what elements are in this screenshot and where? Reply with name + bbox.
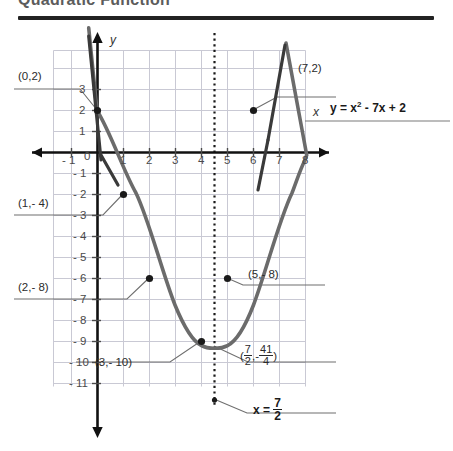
figure-page: Quadratic Function	[0, 0, 453, 451]
equation-rest: - 7x + 2	[365, 101, 406, 115]
y-tick-label-neg5: - 5	[73, 251, 86, 263]
equation-lhs: y =	[330, 101, 347, 115]
y-axis-label: y	[110, 33, 116, 47]
point-label-7-2: (7,2)	[298, 62, 322, 74]
vertex-x-fraction: 72	[244, 344, 252, 367]
y-tick-label-neg6: - 6	[73, 272, 86, 284]
y-tick-label-neg7: - 7	[73, 293, 86, 305]
vertex-close-paren: )	[273, 350, 277, 362]
point-5-neg8	[224, 275, 231, 282]
axis-of-symmetry-label: x = 72	[253, 398, 282, 423]
grid-lines	[54, 51, 306, 387]
y-tick-label-neg3: - 3	[73, 209, 86, 221]
point-1-neg4	[120, 191, 127, 198]
x-tick-label-7: 7	[276, 154, 282, 166]
axis-of-symmetry-lhs: x =	[253, 403, 270, 417]
y-tick-label-neg11: - 11	[69, 377, 88, 389]
equation-exponent: 2	[357, 100, 361, 109]
axis-of-symmetry-denominator: 2	[273, 409, 282, 422]
y-tick-label-neg2: - 2	[73, 188, 86, 200]
point-7-2	[250, 107, 257, 114]
x-tick-label-1: 1	[120, 154, 126, 166]
vertex-y-denominator: 4	[259, 355, 273, 367]
point-label-2-neg8: (2,- 8)	[18, 281, 49, 293]
x-axis-label: x	[313, 105, 319, 119]
x-tick-label-2: 2	[146, 154, 152, 166]
vertex-x-numerator: 7	[244, 344, 252, 355]
point-2-neg8	[146, 275, 153, 282]
parabola-curve	[89, 28, 307, 348]
y-tick-label-neg10: - 10	[69, 356, 89, 368]
point-label-0-2: (0,2)	[18, 70, 42, 82]
x-tick-label-3: 3	[172, 154, 178, 166]
axis-of-symmetry-numerator: 7	[273, 397, 282, 409]
curve-upper-branches	[89, 36, 285, 160]
x-tick-label-0: 0	[84, 150, 90, 162]
quadratic-function-graph	[0, 0, 453, 451]
vertex-label: (72,-414)	[240, 345, 277, 368]
point-3-neg10	[198, 338, 205, 345]
point-label-5-neg8: (5,- 8)	[248, 268, 279, 280]
vertex-y-numerator: 41	[259, 344, 273, 355]
vertex-y-fraction: 414	[259, 344, 273, 367]
y-tick-label-2: 2	[79, 104, 85, 116]
x-tick-label-6: 6	[250, 154, 256, 166]
y-tick-label-3: 3	[79, 83, 85, 95]
axis-of-symmetry-fraction: 72	[273, 397, 282, 422]
point-label-3-neg10: (3,- 10)	[95, 356, 132, 368]
y-tick-label-neg8: - 8	[73, 314, 86, 326]
y-tick-label-neg1: - 1	[73, 167, 86, 179]
x-tick-label-neg1: - 1	[62, 154, 75, 166]
vertex-x-denominator: 2	[244, 355, 252, 367]
point-label-1-neg4: (1,- 4)	[18, 197, 49, 209]
axis-of-symmetry-endpoint	[212, 397, 217, 402]
y-tick-label-neg9: - 9	[73, 335, 86, 347]
x-axis	[32, 148, 329, 158]
point-0-2	[94, 107, 101, 114]
y-tick-label-neg4: - 4	[73, 230, 86, 242]
x-tick-label-5: 5	[224, 154, 230, 166]
equation-label: y = x2 - 7x + 2	[330, 100, 406, 115]
y-tick-label-1: 1	[79, 125, 85, 137]
x-tick-label-8: 8	[302, 154, 308, 166]
x-tick-label-4: 4	[198, 154, 204, 166]
